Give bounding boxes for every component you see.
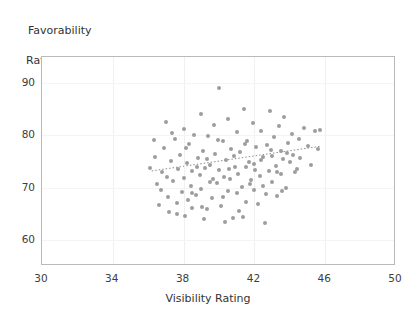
x-tick-label: 42 (233, 272, 273, 284)
gridline-vertical (113, 57, 114, 264)
scatter-point (279, 172, 283, 176)
scatter-point (190, 191, 194, 195)
plot-area (41, 56, 395, 265)
scatter-point (263, 221, 267, 225)
x-tick-label: 46 (304, 272, 344, 284)
scatter-point (232, 154, 236, 158)
gridline-horizontal (42, 188, 394, 189)
scatter-point (275, 170, 279, 174)
scatter-point (164, 120, 168, 124)
scatter-point (210, 196, 214, 200)
scatter-point (261, 184, 265, 188)
scatter-point (258, 174, 262, 178)
x-tick-label: 34 (92, 272, 132, 284)
x-tick-label: 38 (163, 272, 203, 284)
scatter-point (199, 187, 203, 191)
scatter-point (313, 129, 317, 133)
gridline-vertical (325, 57, 326, 264)
x-tick-label: 50 (375, 272, 415, 284)
scatter-point (189, 184, 193, 188)
scatter-point (221, 139, 225, 143)
scatter-point (165, 175, 169, 179)
scatter-point (148, 166, 152, 170)
scatter-point (286, 141, 290, 145)
x-tick-label: 30 (21, 272, 61, 284)
scatter-point (205, 207, 209, 211)
y-tick-label: 70 (7, 181, 35, 193)
scatter-point (264, 192, 268, 196)
scatter-point (306, 144, 310, 148)
scatter-point (175, 201, 179, 205)
y-tick-label: 90 (7, 76, 35, 88)
scatter-point (302, 126, 306, 130)
scatter-point (297, 137, 301, 141)
y-axis-title-line1: Favorability (28, 24, 92, 37)
scatter-point (227, 167, 231, 171)
scatter-point (318, 128, 322, 132)
scatter-point (208, 163, 212, 167)
scatter-point (152, 138, 156, 142)
scatter-point (185, 161, 189, 165)
gridline-vertical (184, 57, 185, 264)
scatter-point (182, 176, 186, 180)
scatter-chart: Favorability Rating Visibility Rating 30… (0, 0, 416, 319)
gridline-vertical (254, 57, 255, 264)
scatter-point (290, 132, 294, 136)
scatter-point (280, 189, 284, 193)
gridline-horizontal (42, 135, 394, 136)
gridline-horizontal (42, 83, 394, 84)
scatter-point (224, 158, 228, 162)
scatter-point (212, 123, 216, 127)
scatter-point (244, 200, 248, 204)
scatter-point (223, 220, 227, 224)
scatter-point (254, 145, 258, 149)
scatter-point (247, 160, 251, 164)
scatter-point (157, 203, 161, 207)
scatter-point (235, 130, 239, 134)
x-axis-title: Visibility Rating (0, 292, 416, 305)
scatter-point (173, 137, 177, 141)
y-tick-label: 80 (7, 128, 35, 140)
scatter-point (274, 164, 278, 168)
scatter-point (226, 117, 230, 121)
scatter-point (182, 127, 186, 131)
scatter-point (211, 177, 215, 181)
scatter-point (279, 149, 283, 153)
scatter-point (243, 142, 247, 146)
scatter-point (244, 165, 248, 169)
gridline-horizontal (42, 240, 394, 241)
y-tick-label: 60 (7, 233, 35, 245)
scatter-point (194, 193, 198, 197)
scatter-point (284, 186, 288, 190)
scatter-point (162, 146, 166, 150)
scatter-point (166, 195, 170, 199)
scatter-point (233, 165, 237, 169)
scatter-point (171, 179, 175, 183)
scatter-point (248, 182, 252, 186)
scatter-point (159, 188, 163, 192)
scatter-point (198, 173, 202, 177)
scatter-point (288, 160, 292, 164)
scatter-point (228, 177, 232, 181)
